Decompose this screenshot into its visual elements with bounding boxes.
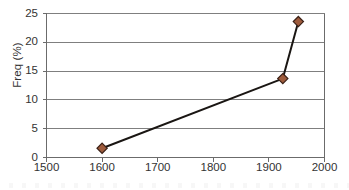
line-chart: Freq (%) 0510152025 15001600170018001900… <box>0 0 349 190</box>
data-series <box>102 22 298 149</box>
data-point-marker <box>97 143 107 153</box>
tick-marks <box>43 14 325 162</box>
gridlines <box>47 14 325 129</box>
plot-area <box>0 0 349 190</box>
data-markers <box>97 16 303 153</box>
scan-artifact <box>0 183 349 188</box>
data-point-marker <box>278 73 288 83</box>
data-point-marker <box>293 16 303 26</box>
axis-lines <box>47 14 325 158</box>
series-line <box>102 22 298 149</box>
